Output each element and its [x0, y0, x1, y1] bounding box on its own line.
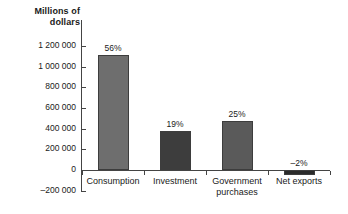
x-axis-tick-mark: [206, 171, 207, 175]
y-axis-tick-label: 0: [4, 165, 76, 174]
bar: [98, 55, 129, 170]
y-axis-tick-label: 800 000: [4, 82, 76, 91]
category-label-line: purchases: [192, 187, 282, 198]
x-axis-tick-mark: [330, 171, 331, 175]
y-axis-tick-label: 600 000: [4, 103, 76, 112]
y-axis-tick-mark: [82, 67, 86, 68]
bar: [160, 131, 191, 170]
x-axis-tick-mark: [82, 171, 83, 175]
bar: [222, 121, 253, 170]
y-axis-title-line-1: Millions of: [34, 6, 80, 16]
y-axis-title-line-2: dollars: [50, 17, 80, 27]
bar-value-label: 19%: [145, 119, 205, 129]
y-axis-tick-label: 1 200 000: [4, 41, 76, 50]
y-axis-title: Millions of dollars: [4, 6, 80, 28]
bar-chart: Millions of dollars 1 200 0001 000 00080…: [0, 0, 348, 214]
y-axis-tick-label: –200 000: [4, 186, 76, 195]
bar-value-label: 56%: [83, 43, 143, 53]
y-axis-tick-mark: [82, 87, 86, 88]
y-axis-tick-label: 200 000: [4, 144, 76, 153]
y-axis-tick-mark: [82, 149, 86, 150]
category-label-line: Net exports: [276, 176, 322, 186]
y-axis-tick-mark: [82, 129, 86, 130]
x-axis-tick-mark: [144, 171, 145, 175]
bar-value-label: –2%: [269, 158, 329, 168]
category-label-line: Investment: [153, 176, 197, 186]
y-axis-tick-label: 1 000 000: [4, 62, 76, 71]
bar-value-label: 25%: [207, 109, 267, 119]
y-axis-tick-mark: [82, 108, 86, 109]
x-axis-category-label: Net exports: [254, 176, 344, 187]
y-axis-foot: [81, 191, 86, 192]
bar: [284, 170, 315, 175]
x-axis-tick-mark: [268, 171, 269, 175]
y-axis-tick-label: 400 000: [4, 124, 76, 133]
